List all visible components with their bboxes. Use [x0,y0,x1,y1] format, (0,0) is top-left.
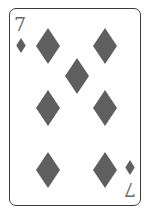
rank-index-top: 7 [14,15,26,34]
diamond-icon [93,152,117,188]
diamond-icon [36,90,60,126]
diamond-icon [65,58,89,94]
rank-index-bottom: 7 [124,180,136,199]
diamond-icon [36,152,60,188]
diamond-icon [93,90,117,126]
corner-diamond-icon-top [16,38,26,53]
card-face [9,8,141,206]
diamond-icon [36,28,60,64]
diamond-icon [93,28,117,64]
corner-diamond-icon-bottom [125,160,135,175]
